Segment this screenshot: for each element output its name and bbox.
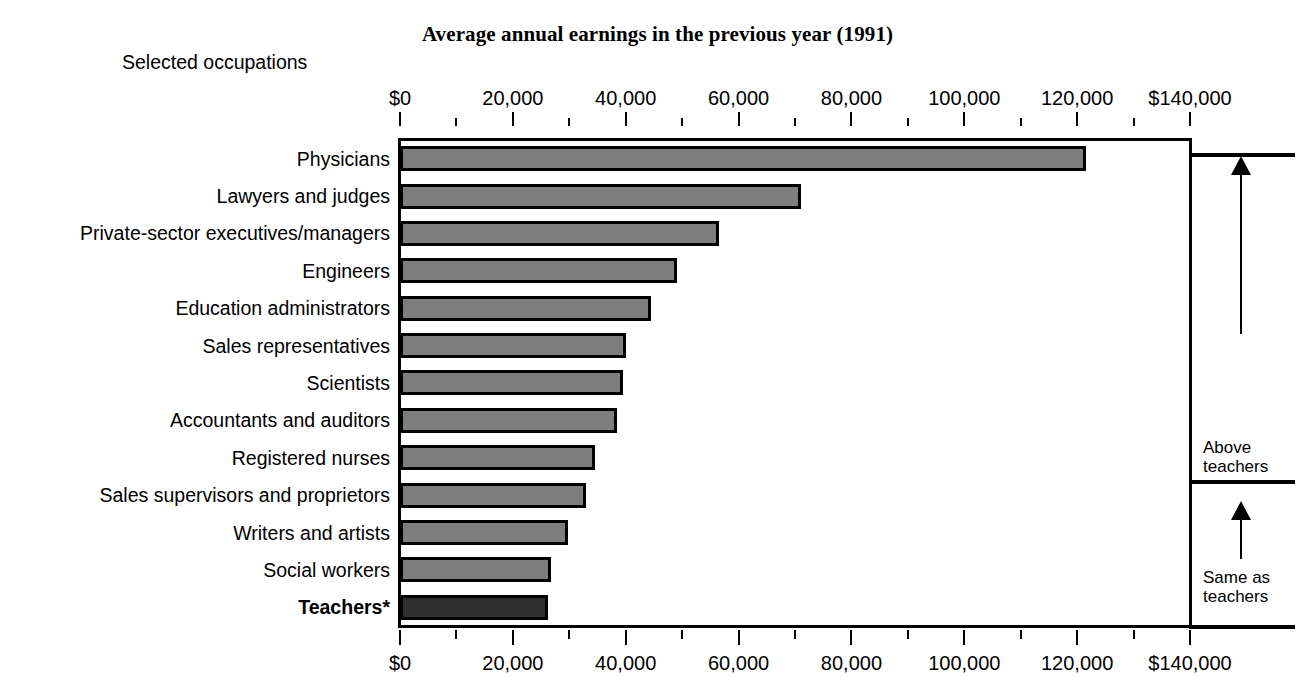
- bars-layer: [400, 140, 1192, 626]
- y-category-label: Sales representatives: [0, 335, 390, 357]
- y-category-label: Engineers: [0, 260, 390, 282]
- x-axis-labels-top: $020,00040,00060,00080,000100,000120,000…: [0, 86, 1315, 110]
- x-tick-label: 80,000: [821, 651, 882, 675]
- y-category-label: Registered nurses: [0, 447, 390, 469]
- x-tick-major: [399, 112, 401, 126]
- y-category-label: Physicians: [0, 148, 390, 170]
- x-axis-ticks-top: [0, 112, 1315, 126]
- x-tick-minor: [681, 118, 683, 126]
- bar[interactable]: [400, 221, 719, 246]
- y-category-label: Accountants and auditors: [0, 409, 390, 431]
- x-tick-major: [399, 630, 401, 645]
- x-tick-minor: [794, 630, 796, 639]
- x-tick-major: [850, 630, 852, 645]
- y-category-label: Education administrators: [0, 297, 390, 319]
- bar[interactable]: [400, 184, 801, 209]
- bar[interactable]: [400, 557, 551, 582]
- side-annotation-group: Above teachers Same as teachers: [1189, 138, 1315, 633]
- above-teachers-label-line1: Above: [1203, 438, 1251, 457]
- bar[interactable]: [400, 408, 617, 433]
- annotation-rule-middle: [1189, 480, 1295, 484]
- x-tick-label: 100,000: [928, 651, 1000, 675]
- x-tick-minor: [568, 630, 570, 639]
- x-tick-major: [625, 112, 627, 126]
- y-category-label: Writers and artists: [0, 522, 390, 544]
- above-teachers-label-line2: teachers: [1203, 457, 1268, 476]
- x-axis-ticks-bottom: [0, 628, 1315, 642]
- bar[interactable]: [400, 520, 568, 545]
- x-tick-major: [963, 112, 965, 126]
- x-tick-label: 60,000: [708, 86, 769, 110]
- same-as-teachers-label-line2: teachers: [1203, 587, 1268, 606]
- x-tick-minor: [1133, 118, 1135, 126]
- y-category-label: Social workers: [0, 559, 390, 581]
- annotation-rule-bottom: [1189, 625, 1295, 629]
- x-tick-minor: [681, 630, 683, 639]
- above-teachers-arrow-icon: [1240, 174, 1242, 334]
- bar[interactable]: [400, 595, 548, 620]
- bar[interactable]: [400, 146, 1086, 171]
- x-tick-label: 120,000: [1041, 86, 1113, 110]
- x-tick-minor: [907, 630, 909, 639]
- x-tick-minor: [1133, 630, 1135, 639]
- y-category-label: Private-sector executives/managers: [0, 222, 390, 244]
- x-tick-minor: [455, 118, 457, 126]
- chart-root: Average annual earnings in the previous …: [0, 0, 1315, 699]
- x-tick-label: 120,000: [1041, 651, 1113, 675]
- same-as-teachers-arrow-icon: [1240, 519, 1242, 559]
- y-category-label: Sales supervisors and proprietors: [0, 484, 390, 506]
- x-tick-minor: [907, 118, 909, 126]
- x-tick-minor: [794, 118, 796, 126]
- x-tick-major: [625, 630, 627, 645]
- x-tick-major: [963, 630, 965, 645]
- y-category-label: Scientists: [0, 372, 390, 394]
- chart-subtitle: Selected occupations: [122, 51, 307, 74]
- x-tick-label: $140,000: [1148, 86, 1231, 110]
- x-tick-minor: [455, 630, 457, 639]
- x-tick-major: [738, 630, 740, 645]
- bar[interactable]: [400, 483, 586, 508]
- x-tick-label: 100,000: [928, 86, 1000, 110]
- x-tick-major: [738, 112, 740, 126]
- bar[interactable]: [400, 445, 595, 470]
- y-category-label: Teachers*: [0, 596, 390, 618]
- x-tick-major: [512, 112, 514, 126]
- x-tick-label: $0: [389, 651, 411, 675]
- y-axis-category-labels: PhysiciansLawyers and judgesPrivate-sect…: [0, 140, 390, 626]
- chart-title: Average annual earnings in the previous …: [0, 22, 1315, 47]
- x-tick-major: [1189, 112, 1191, 126]
- x-tick-label: 60,000: [708, 651, 769, 675]
- x-tick-label: 40,000: [595, 86, 656, 110]
- y-category-label: Lawyers and judges: [0, 185, 390, 207]
- x-tick-minor: [1020, 630, 1022, 639]
- x-tick-label: $140,000: [1148, 651, 1231, 675]
- x-tick-minor: [568, 118, 570, 126]
- x-tick-label: 20,000: [482, 86, 543, 110]
- x-tick-label: 40,000: [595, 651, 656, 675]
- same-as-teachers-label-line1: Same as: [1203, 568, 1270, 587]
- x-tick-minor: [1020, 118, 1022, 126]
- x-tick-label: $0: [389, 86, 411, 110]
- x-tick-label: 20,000: [482, 651, 543, 675]
- bar[interactable]: [400, 296, 651, 321]
- x-tick-major: [1076, 630, 1078, 645]
- x-tick-major: [512, 630, 514, 645]
- bar[interactable]: [400, 370, 623, 395]
- bar[interactable]: [400, 258, 677, 283]
- x-tick-major: [850, 112, 852, 126]
- x-tick-major: [1076, 112, 1078, 126]
- x-tick-label: 80,000: [821, 86, 882, 110]
- x-axis-labels-bottom: $020,00040,00060,00080,000100,000120,000…: [0, 651, 1315, 675]
- bar[interactable]: [400, 333, 626, 358]
